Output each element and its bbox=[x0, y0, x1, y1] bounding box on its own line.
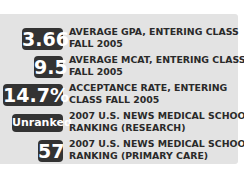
stat-label-line1: ACCEPTANCE RATE, ENTERING bbox=[69, 82, 239, 94]
stat-label-line1: AVERAGE GPA, ENTERING CLASS bbox=[69, 26, 239, 38]
stat-value-badge: 3.66 bbox=[22, 28, 63, 50]
stat-label-line1: 2007 U.S. NEWS MEDICAL SCHOOL bbox=[69, 110, 239, 122]
stat-row-research-rank: Unranked 2007 U.S. NEWS MEDICAL SCHOOL R… bbox=[0, 110, 238, 138]
stat-label-line2: RANKING (PRIMARY CARE) bbox=[69, 150, 239, 162]
stat-label-line2: CLASS FALL 2005 bbox=[69, 94, 239, 106]
stat-label-line1: AVERAGE MCAT, ENTERING CLASS bbox=[69, 54, 239, 66]
stats-panel: 3.66 AVERAGE GPA, ENTERING CLASS FALL 20… bbox=[0, 14, 238, 164]
stat-label: ACCEPTANCE RATE, ENTERING CLASS FALL 200… bbox=[69, 82, 239, 106]
stat-row-primary-care-rank: 57 2007 U.S. NEWS MEDICAL SCHOOL RANKING… bbox=[0, 138, 238, 166]
stat-value-badge: 57 bbox=[38, 140, 63, 162]
stat-value-badge: 9.5 bbox=[34, 56, 63, 78]
stat-label: 2007 U.S. NEWS MEDICAL SCHOOL RANKING (R… bbox=[69, 110, 239, 134]
stat-label-line2: RANKING (RESEARCH) bbox=[69, 122, 239, 134]
stat-label-line2: FALL 2005 bbox=[69, 38, 239, 50]
stat-label: AVERAGE MCAT, ENTERING CLASS FALL 2005 bbox=[69, 54, 239, 78]
stat-label-line2: FALL 2005 bbox=[69, 66, 239, 78]
stat-label: AVERAGE GPA, ENTERING CLASS FALL 2005 bbox=[69, 26, 239, 50]
stat-label: 2007 U.S. NEWS MEDICAL SCHOOL RANKING (P… bbox=[69, 138, 239, 162]
stat-row-mcat: 9.5 AVERAGE MCAT, ENTERING CLASS FALL 20… bbox=[0, 54, 238, 82]
stat-row-gpa: 3.66 AVERAGE GPA, ENTERING CLASS FALL 20… bbox=[0, 26, 238, 54]
stat-value-badge: Unranked bbox=[12, 114, 63, 132]
stat-value-badge: 14.7% bbox=[3, 84, 63, 106]
stat-row-acceptance: 14.7% ACCEPTANCE RATE, ENTERING CLASS FA… bbox=[0, 82, 238, 110]
stat-label-line1: 2007 U.S. NEWS MEDICAL SCHOOL bbox=[69, 138, 239, 150]
